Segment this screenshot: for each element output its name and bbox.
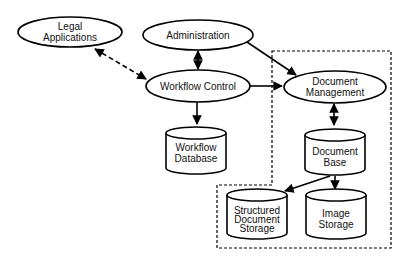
node-label: Image (322, 208, 350, 219)
node-label: Legal (58, 21, 82, 32)
node-workflow-control[interactable]: Workflow Control (146, 70, 250, 102)
node-label: Storage (239, 223, 274, 234)
node-label: Administration (166, 30, 229, 41)
node-document-management[interactable]: Document Management (284, 71, 386, 103)
architecture-diagram: Legal Applications Administration Workfl… (0, 0, 407, 259)
node-label: Document (312, 146, 358, 157)
node-label: Database (175, 153, 218, 164)
node-label: Applications (43, 32, 97, 43)
node-label: Base (324, 157, 347, 168)
node-legal-applications[interactable]: Legal Applications (18, 17, 122, 47)
node-document-base[interactable]: Document Base (305, 129, 365, 175)
node-label: Document (312, 76, 358, 87)
node-label: Storage (318, 219, 353, 230)
node-image-storage[interactable]: Image Storage (306, 189, 366, 239)
node-administration[interactable]: Administration (143, 20, 253, 50)
node-label: Workflow (176, 142, 218, 153)
node-structured-document-storage[interactable]: Structured Document Storage (227, 189, 287, 239)
node-label: Management (306, 87, 365, 98)
edge-legal-workflow (95, 49, 146, 79)
node-workflow-database[interactable]: Workflow Database (166, 127, 226, 174)
node-label: Workflow Control (160, 81, 236, 92)
